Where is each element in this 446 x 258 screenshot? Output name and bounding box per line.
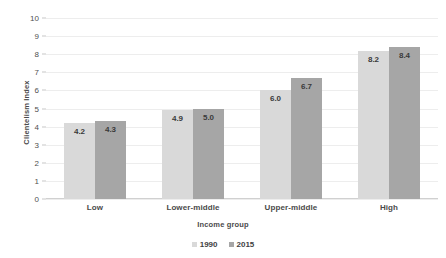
- y-axis-tick-label: 4: [35, 122, 39, 131]
- bar-group: 8.28.4: [358, 18, 420, 199]
- bar-1990-upper-middle[interactable]: 6.0: [260, 90, 291, 199]
- legend-label: 1990: [200, 240, 218, 249]
- y-axis-tick-label: 2: [35, 158, 39, 167]
- bar-1990-lower-middle[interactable]: 4.9: [162, 110, 193, 199]
- y-axis-tick-label: 9: [35, 32, 39, 41]
- bar-2015-high[interactable]: 8.4: [389, 47, 420, 199]
- x-axis-title: Income group: [0, 220, 446, 229]
- bar-groups: 4.24.34.95.06.06.78.28.4: [46, 18, 438, 199]
- y-axis-tick-label: 1: [35, 176, 39, 185]
- bar-value-label: 5.0: [203, 113, 214, 122]
- y-axis-tick-label: 8: [35, 50, 39, 59]
- x-axis-category-label: Lower-middle: [144, 203, 242, 212]
- bar-1990-low[interactable]: 4.2: [64, 123, 95, 199]
- y-axis-tick-label: 6: [35, 86, 39, 95]
- bar-2015-upper-middle[interactable]: 6.7: [291, 78, 322, 199]
- bar-group: 4.24.3: [64, 18, 126, 199]
- x-axis-category-label: Low: [46, 203, 144, 212]
- legend-label: 2015: [237, 240, 255, 249]
- y-axis-tick-label: 5: [35, 104, 39, 113]
- bar-value-label: 8.4: [399, 51, 410, 60]
- y-axis-tick-label: 7: [35, 68, 39, 77]
- bar-1990-high[interactable]: 8.2: [358, 51, 389, 199]
- y-axis-tick-label: 10: [30, 14, 39, 23]
- legend-item-2015[interactable]: 2015: [229, 240, 255, 249]
- legend-item-1990[interactable]: 1990: [192, 240, 218, 249]
- y-axis-title: Clientelism Index: [22, 43, 31, 183]
- bar-group: 6.06.7: [260, 18, 322, 199]
- y-axis-tick-label: 0: [35, 195, 39, 204]
- bar-group: 4.95.0: [162, 18, 224, 199]
- bar-2015-low[interactable]: 4.3: [95, 121, 126, 199]
- plot-area: 109876543210 4.24.34.95.06.06.78.28.4: [46, 18, 438, 199]
- bar-value-label: 4.3: [105, 125, 116, 134]
- bar-value-label: 4.2: [74, 127, 85, 136]
- legend-swatch-icon: [192, 242, 197, 247]
- chart-legend: 19902015: [0, 240, 446, 249]
- x-axis-category-label: Upper-middle: [242, 203, 340, 212]
- x-axis-category-label: High: [340, 203, 438, 212]
- bar-value-label: 4.9: [172, 114, 183, 123]
- gridline: [46, 199, 438, 200]
- y-axis-tick-label: 3: [35, 140, 39, 149]
- clientelism-index-bar-chart: Clientelism Index 109876543210 4.24.34.9…: [0, 0, 446, 258]
- legend-swatch-icon: [229, 242, 234, 247]
- bar-value-label: 6.0: [270, 94, 281, 103]
- bar-value-label: 8.2: [368, 55, 379, 64]
- x-axis-tick-labels: LowLower-middleUpper-middleHigh: [46, 203, 438, 217]
- bar-2015-lower-middle[interactable]: 5.0: [193, 109, 224, 200]
- bar-value-label: 6.7: [301, 82, 312, 91]
